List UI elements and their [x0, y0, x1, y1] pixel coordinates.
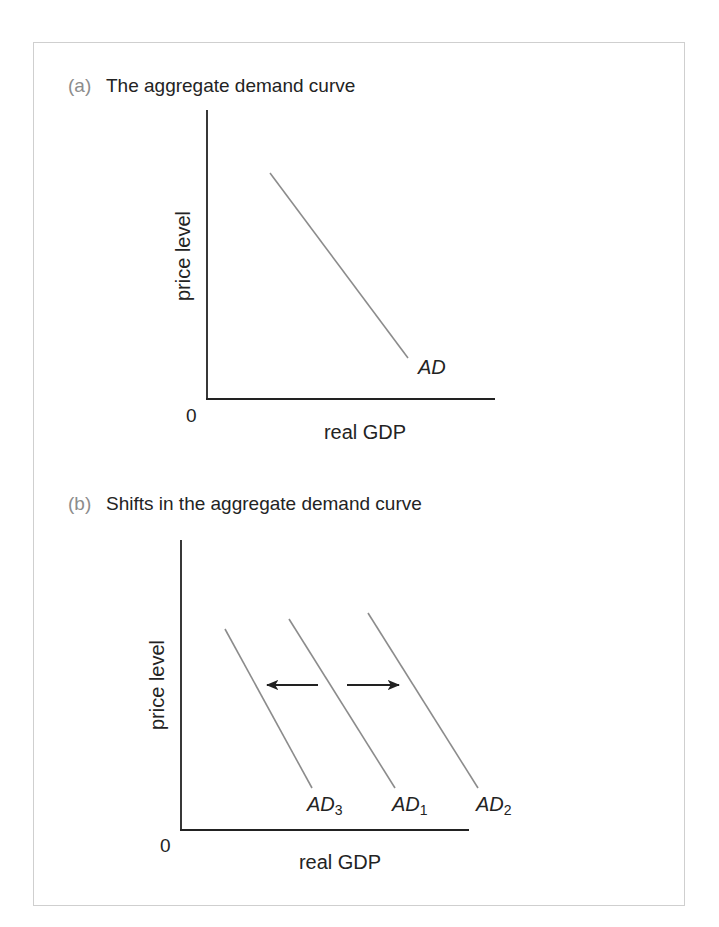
panel-a-y-axis-label: price level: [172, 211, 194, 301]
figure-canvas: (a) The aggregate demand curve price lev…: [0, 0, 719, 927]
panel-a-ad-label: AD: [417, 356, 446, 378]
panel-b-tag: (b): [68, 493, 91, 514]
panel-b: (b) Shifts in the aggregate demand curve…: [68, 493, 512, 873]
panel-b-ad3-curve: [225, 629, 312, 788]
panel-a-origin-label: 0: [186, 405, 197, 426]
panel-b-x-axis-label: real GDP: [299, 851, 381, 873]
panel-b-ad3-label: AD3: [306, 793, 343, 818]
panel-b-ad2-label: AD2: [475, 793, 512, 818]
panel-b-y-axis-label: price level: [146, 640, 168, 730]
panel-a-title: The aggregate demand curve: [106, 75, 355, 96]
panel-b-ad1-curve: [289, 619, 395, 788]
panel-b-origin-label: 0: [160, 835, 171, 856]
panel-a: (a) The aggregate demand curve price lev…: [68, 75, 495, 443]
panel-a-x-axis-label: real GDP: [324, 421, 406, 443]
panel-a-ad-curve: [270, 173, 408, 358]
panel-b-title: Shifts in the aggregate demand curve: [106, 493, 422, 514]
panel-b-ad1-label: AD1: [391, 793, 428, 818]
panel-a-tag: (a): [68, 75, 91, 96]
panel-b-ad2-curve: [368, 613, 478, 788]
